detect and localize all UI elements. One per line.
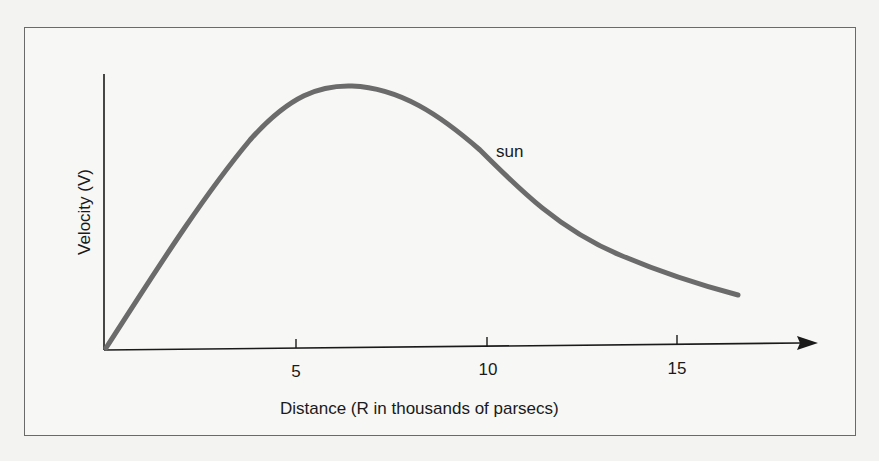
y-axis-label: Velocity (V) [75,169,94,255]
x-tick-label-10: 10 [479,360,498,379]
x-tick-label-5: 5 [291,362,300,381]
x-axis-label: Distance (R in thousands of parsecs) [280,399,559,418]
rotation-curve [106,86,738,348]
x-axis [104,343,800,350]
x-tick-label-15: 15 [668,359,687,378]
rotation-curve-chart: 5 10 15 Distance (R in thousands of pars… [0,0,879,461]
x-axis-arrow-icon [797,336,818,350]
sun-annotation: sun [496,142,523,161]
